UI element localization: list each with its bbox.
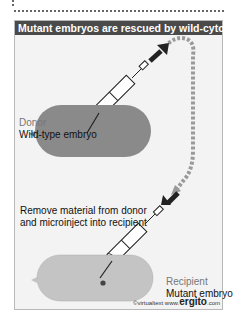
credit-brand: ergito — [179, 296, 207, 307]
dotted-border-top — [14, 4, 224, 12]
transfer-path-icon — [165, 38, 193, 189]
credit-suffix: .com — [207, 300, 220, 306]
diagram-graphics — [15, 21, 222, 309]
donor-role-label: Donor — [19, 117, 46, 129]
injected-cytoplasm-icon — [100, 280, 105, 285]
figure-panel: Mutant embryos are rescued by wild-cytop… — [14, 20, 223, 310]
withdraw-arrow-icon — [150, 43, 169, 61]
credit-prefix: ©virtualtext www. — [133, 300, 179, 306]
inject-arrow-icon — [161, 193, 178, 205]
recipient-role-label: Recipient — [166, 276, 208, 288]
instruction-line1: Remove material from donor — [20, 205, 147, 217]
instruction-line2: and microinject into recipient — [20, 217, 147, 229]
copyright-credit: ©virtualtext www.ergito.com — [133, 296, 220, 307]
donor-description-label: Wild-type embryo — [19, 129, 97, 141]
recipient-embryo-icon — [37, 255, 153, 301]
